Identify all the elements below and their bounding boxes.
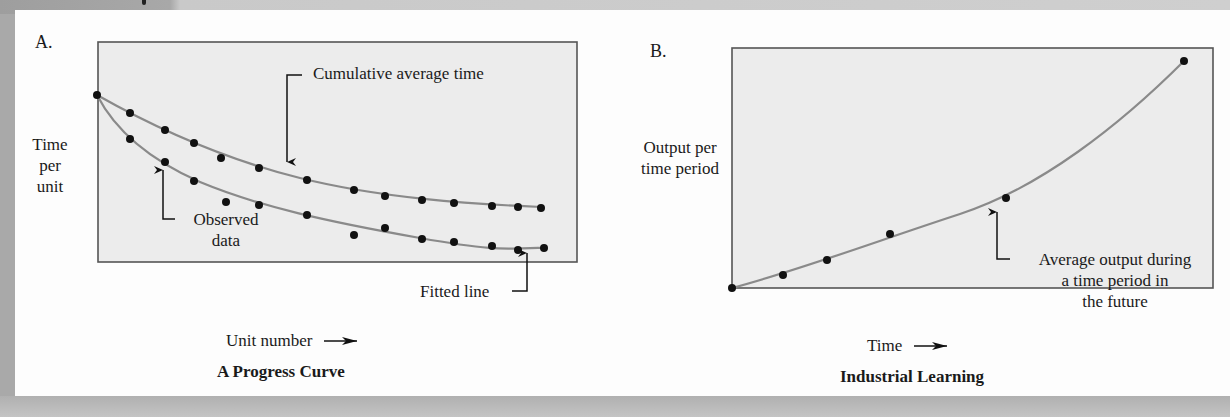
y-label-line: per	[28, 155, 72, 176]
panel-a-letter: A.	[35, 32, 53, 53]
fitted-line-annotation: Fitted line	[420, 281, 489, 302]
cumulative-average-point	[161, 126, 169, 134]
observed-data-point	[450, 238, 458, 246]
cumulative-average-point	[450, 199, 458, 207]
panel-a-y-axis-label: Time per unit	[28, 134, 72, 197]
cumulative-average-point	[303, 176, 311, 184]
observed-data-annotation: Observed data	[180, 209, 272, 251]
annotation-line: the future	[1004, 291, 1226, 312]
cumulative-average-point	[537, 204, 545, 212]
cumulative-average-point	[190, 139, 198, 147]
y-label-line: Time	[28, 134, 72, 155]
panel-b-x-axis-label: Time	[867, 335, 902, 356]
cumulative-average-point	[217, 154, 225, 162]
observed-data-point	[190, 177, 198, 185]
y-label-line: Output per	[630, 137, 730, 158]
observed-data-point	[488, 242, 496, 250]
annotation-line: Observed	[180, 209, 272, 230]
panel-a-caption: A Progress Curve	[217, 361, 345, 382]
observed-data-point	[222, 198, 230, 206]
y-label-line: time period	[630, 158, 730, 179]
observed-data-point	[303, 211, 311, 219]
annotation-line: a time period in	[1004, 270, 1226, 291]
cumulative-average-point	[126, 109, 134, 117]
observed-data-point	[418, 235, 426, 243]
cumulative-average-point	[514, 203, 522, 211]
output-point	[823, 256, 831, 264]
cumulative-average-point	[255, 164, 263, 172]
observed-data-point	[255, 201, 263, 209]
cumulative-average-point	[93, 91, 101, 99]
output-point	[886, 230, 894, 238]
output-point	[779, 271, 787, 279]
output-point	[728, 284, 736, 292]
observed-data-point	[381, 224, 389, 232]
panel-b-y-axis-label: Output per time period	[630, 137, 730, 179]
output-point	[1002, 194, 1010, 202]
cumulative-average-point	[488, 202, 496, 210]
observed-data-point	[540, 244, 548, 252]
cumulative-average-annotation: Cumulative average time	[313, 63, 484, 84]
panel-b-letter: B.	[650, 41, 667, 62]
cumulative-average-point	[381, 192, 389, 200]
observed-data-point	[514, 246, 522, 254]
panel-b-caption: Industrial Learning	[840, 366, 984, 387]
y-label-line: unit	[28, 176, 72, 197]
annotation-line: Average output during	[1004, 249, 1226, 270]
panel-a-x-axis-label: Unit number	[226, 330, 312, 351]
output-point	[1180, 57, 1188, 65]
observed-data-point	[350, 231, 358, 239]
cumulative-average-point	[418, 196, 426, 204]
cumulative-average-point	[350, 186, 358, 194]
average-output-annotation: Average output during a time period in t…	[1004, 249, 1226, 312]
observed-data-point	[126, 135, 134, 143]
observed-data-point	[161, 158, 169, 166]
annotation-line: data	[180, 230, 272, 251]
